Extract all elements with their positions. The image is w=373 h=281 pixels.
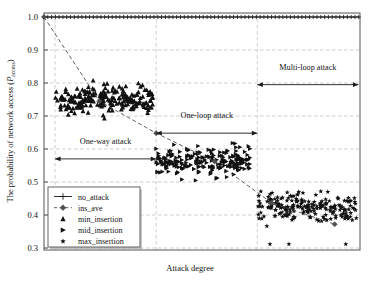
y-tick-label: 0.7 xyxy=(27,111,38,121)
svg-text:The probability of network acc: The probability of network access (Pacce… xyxy=(5,59,16,202)
y-tick-label: 0.8 xyxy=(27,78,38,88)
chart-figure: 0.30.40.50.60.70.80.91.0 One-way attackO… xyxy=(0,0,373,281)
y-tick-label: 0.3 xyxy=(27,243,38,253)
y-axis-label-main: The probability of network access ( xyxy=(5,82,15,203)
y-tick-label: 0.5 xyxy=(27,177,38,187)
y-axis-label: The probability of network access (Pacce… xyxy=(5,59,16,202)
annotation-label: One-loop attack xyxy=(180,111,233,120)
legend-label: ins_ave xyxy=(78,204,103,213)
legend-label: max_insertion xyxy=(78,237,124,246)
legend-label: mid_insertion xyxy=(78,226,122,235)
y-tick-label: 0.9 xyxy=(27,45,38,55)
chart-svg: 0.30.40.50.60.70.80.91.0 One-way attackO… xyxy=(0,0,373,281)
legend-label: no_attack xyxy=(78,193,109,202)
annotation-label: One-way attack xyxy=(80,137,133,146)
legend-label: min_insertion xyxy=(78,215,122,224)
y-axis-label-tail: ) xyxy=(5,59,15,62)
chart-legend[interactable]: no_attackins_avemin_insertionmid_inserti… xyxy=(48,187,142,250)
annotation-label: Multi-loop attack xyxy=(279,63,337,72)
x-axis-label: Attack degree xyxy=(166,263,214,273)
y-tick-label: 0.4 xyxy=(27,210,38,220)
y-tick-label: 0.6 xyxy=(27,144,38,154)
y-tick-label: 1.0 xyxy=(27,12,38,22)
y-axis-label-subscript: access xyxy=(10,62,16,76)
